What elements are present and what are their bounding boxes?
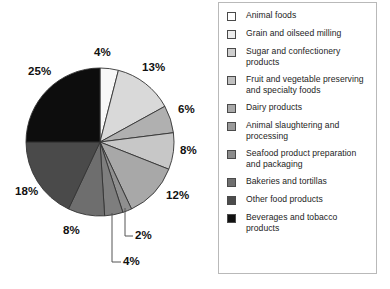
leader-line-group <box>112 208 133 262</box>
legend-item[interactable]: Beverages and tobacco products <box>227 212 370 233</box>
legend-swatch-icon <box>227 122 236 131</box>
pie-slice-percent-label: 2% <box>135 230 152 242</box>
legend-item[interactable]: Other food products <box>227 194 370 205</box>
legend-item[interactable]: Sugar and confectionery products <box>227 46 370 67</box>
legend-item-label: Seafood product preparation and packagin… <box>246 148 370 169</box>
pie-slice-percent-label: 8% <box>180 145 197 157</box>
pie-slice-percent-label: 8% <box>63 225 80 237</box>
legend-swatch-icon <box>227 214 236 223</box>
leader-line-4pct <box>112 213 121 262</box>
legend-swatch-icon <box>227 48 236 57</box>
legend-item-label: Beverages and tobacco products <box>246 212 370 233</box>
legend: Animal foodsGrain and oilseed millingSug… <box>218 2 377 274</box>
pie-slice-percent-label: 6% <box>178 104 195 116</box>
legend-swatch-icon <box>227 12 236 21</box>
legend-swatch-icon <box>227 104 236 113</box>
legend-swatch-icon <box>227 196 236 205</box>
pie-slice-percent-label: 4% <box>94 47 111 59</box>
pie-slice-percent-label: 18% <box>15 186 38 198</box>
legend-item[interactable]: Grain and oilseed milling <box>227 28 370 39</box>
legend-item[interactable]: Animal slaughtering and processing <box>227 120 370 141</box>
legend-item[interactable]: Dairy products <box>227 102 370 113</box>
legend-item-label: Animal slaughtering and processing <box>246 120 370 141</box>
pie-slice-percent-label: 13% <box>142 62 165 74</box>
legend-item-label: Sugar and confectionery products <box>246 46 370 67</box>
pie-slice-group <box>26 68 174 216</box>
pie-chart-figure: 4%13%6%8%12%2%4%8%18%25% Animal foodsGra… <box>0 0 390 289</box>
legend-item-label: Other food products <box>246 194 323 205</box>
pie-slice-percent-label: 12% <box>166 190 189 202</box>
legend-item[interactable]: Fruit and vegetable preserving and speci… <box>227 74 370 95</box>
legend-swatch-icon <box>227 30 236 39</box>
legend-item-label: Grain and oilseed milling <box>246 28 341 39</box>
legend-item-label: Bakeries and tortillas <box>246 176 327 187</box>
pie-chart-area: 4%13%6%8%12%2%4%8%18%25% <box>0 0 218 289</box>
legend-item[interactable]: Seafood product preparation and packagin… <box>227 148 370 169</box>
legend-item-label: Animal foods <box>246 10 296 21</box>
pie-slice[interactable] <box>26 68 100 142</box>
pie-slice-percent-label: 4% <box>123 256 140 268</box>
legend-item-label: Fruit and vegetable preserving and speci… <box>246 74 370 95</box>
legend-swatch-icon <box>227 178 236 187</box>
legend-item-label: Dairy products <box>246 102 302 113</box>
legend-swatch-icon <box>227 76 236 85</box>
leader-line-2pct <box>125 208 133 236</box>
legend-swatch-icon <box>227 150 236 159</box>
legend-item[interactable]: Animal foods <box>227 10 370 21</box>
pie-slice-percent-label: 25% <box>28 66 51 78</box>
legend-item[interactable]: Bakeries and tortillas <box>227 176 370 187</box>
